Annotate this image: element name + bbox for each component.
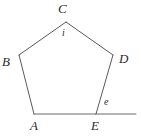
interior-angle-label: i <box>62 28 65 38</box>
vertex-label-a: A <box>30 119 38 132</box>
geometry-figure: C B D A E i e <box>0 0 141 139</box>
exterior-angle-label: e <box>104 97 108 107</box>
edge-c-d <box>66 22 113 55</box>
vertex-label-c: C <box>58 2 67 15</box>
edge-a-b <box>19 55 34 114</box>
vertex-label-b: B <box>2 55 10 68</box>
pentagon-diagram-svg <box>0 0 141 139</box>
vertex-label-e: E <box>91 119 99 132</box>
vertex-label-d: D <box>119 52 128 65</box>
edge-b-c <box>19 22 66 55</box>
